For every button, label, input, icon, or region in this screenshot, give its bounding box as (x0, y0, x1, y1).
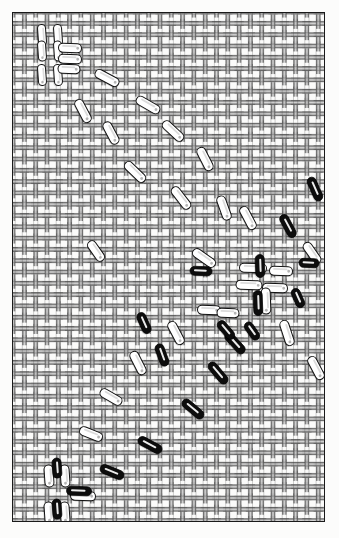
stained-rod (305, 176, 324, 204)
unstained-rod (278, 319, 296, 348)
stained-rod (242, 320, 262, 343)
stained-rod (179, 397, 206, 422)
particle-layer (13, 13, 324, 521)
unstained-rod (194, 146, 215, 174)
stained-rod (289, 287, 307, 310)
stained-rod (205, 360, 230, 387)
stained-rod (153, 343, 171, 369)
unstained-rod (36, 41, 47, 62)
unstained-rod (58, 54, 82, 65)
mesh-area (13, 13, 324, 521)
unstained-rod (134, 95, 162, 117)
unstained-rod (165, 320, 186, 348)
unstained-rod (217, 308, 240, 319)
unstained-rod (78, 425, 105, 444)
figure-frame (12, 12, 325, 522)
unstained-rod (169, 185, 194, 212)
figure-root: Woven wire mesh with rod-shaped particle… (0, 0, 339, 538)
stained-rod (254, 254, 265, 278)
unstained-rod (98, 387, 125, 408)
stained-rod (51, 499, 63, 520)
unstained-rod (72, 98, 93, 126)
stained-rod (299, 258, 320, 269)
unstained-rod (93, 68, 121, 90)
unstained-rod (58, 64, 81, 75)
stained-rod (252, 290, 263, 316)
unstained-rod (58, 43, 82, 54)
stained-rod (136, 435, 164, 457)
stained-rod (277, 213, 298, 241)
unstained-rod (100, 120, 121, 147)
unstained-rod (122, 160, 148, 186)
unstained-rod (127, 350, 148, 378)
stained-rod (51, 458, 63, 479)
unstained-rod (269, 266, 293, 277)
unstained-rod (305, 355, 324, 383)
unstained-rod (36, 64, 47, 86)
unstained-rod (85, 239, 107, 264)
stained-rod (66, 486, 92, 497)
unstained-rod (237, 205, 258, 233)
stained-rod (98, 463, 126, 482)
unstained-rod (160, 119, 187, 145)
stained-rod (134, 311, 153, 336)
unstained-rod (214, 195, 232, 223)
unstained-rod (236, 280, 263, 291)
stained-rod (190, 266, 213, 277)
